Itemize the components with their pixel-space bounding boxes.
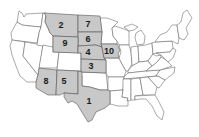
label-new-mexico: 5	[61, 76, 66, 86]
state-colorado	[57, 52, 81, 71]
label-arizona: 8	[43, 76, 48, 86]
label-wyoming: 9	[62, 38, 67, 48]
state-new-england	[177, 10, 192, 40]
us-map: 2 7 6 9 4 10 3 8 5 1	[0, 0, 199, 137]
label-texas: 1	[86, 96, 91, 106]
state-new-mexico	[56, 70, 78, 95]
label-nebraska: 4	[85, 47, 90, 57]
label-iowa: 10	[104, 46, 114, 56]
state-florida	[135, 95, 164, 120]
label-montana: 2	[58, 20, 63, 30]
state-arkansas	[108, 77, 124, 91]
state-new-york	[155, 25, 179, 44]
label-kansas: 3	[88, 61, 93, 71]
label-north-dakota: 7	[85, 19, 90, 29]
label-south-dakota: 6	[85, 34, 90, 44]
